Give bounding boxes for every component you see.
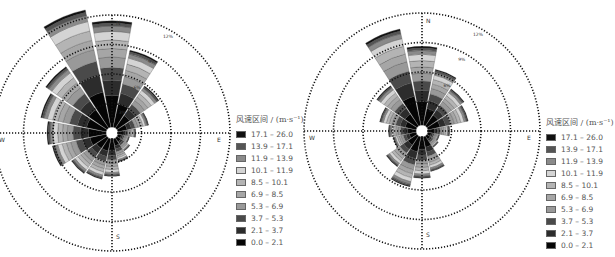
legend-title: 风速区间 / (m·s⁻¹) bbox=[546, 116, 614, 127]
legend-item: 10.1 – 11.9 bbox=[546, 167, 614, 179]
legend-rows: 17.1 – 26.013.9 – 17.111.9 – 13.910.1 – … bbox=[236, 128, 304, 248]
ring-label: 9% bbox=[148, 59, 156, 64]
legend-item: 17.1 – 26.0 bbox=[236, 128, 304, 140]
axis-label: S bbox=[116, 233, 120, 240]
axis-label: E bbox=[217, 136, 221, 143]
legend-label: 6.9 – 8.5 bbox=[561, 193, 593, 202]
legend-swatch bbox=[236, 155, 246, 162]
legend-title: 风速区间 / (m·s⁻¹) bbox=[236, 113, 304, 124]
legend-item: 11.9 – 13.9 bbox=[236, 152, 304, 164]
legend-label: 5.3 – 6.9 bbox=[251, 202, 283, 211]
legend-item: 2.1 – 3.7 bbox=[546, 227, 614, 239]
ring-label: 3% bbox=[119, 110, 127, 115]
legend-label: 3.7 – 5.3 bbox=[561, 217, 593, 226]
legend-label: 13.9 – 17.1 bbox=[561, 145, 603, 154]
wind-rose-left: 3%6%9%12%NSWE bbox=[0, 10, 230, 251]
axis-label: W bbox=[309, 134, 315, 141]
ring-label: 12% bbox=[163, 34, 174, 39]
legend-item: 5.3 – 6.9 bbox=[236, 200, 304, 212]
legend-label: 11.9 – 13.9 bbox=[251, 154, 293, 163]
legend-swatch bbox=[546, 170, 556, 177]
legend-item: 0.0 – 2.1 bbox=[236, 236, 304, 248]
legend-swatch bbox=[546, 218, 556, 225]
legend-label: 17.1 – 26.0 bbox=[251, 130, 293, 139]
legend-item: 3.7 – 5.3 bbox=[546, 215, 614, 227]
legend-item: 8.5 – 10.1 bbox=[546, 179, 614, 191]
legend-swatch bbox=[236, 239, 246, 246]
legend-rows: 17.1 – 26.013.9 – 17.111.9 – 13.910.1 – … bbox=[546, 131, 614, 251]
legend-item: 8.5 – 10.1 bbox=[236, 176, 304, 188]
legend-item: 17.1 – 26.0 bbox=[546, 131, 614, 143]
legend-item: 13.9 – 17.1 bbox=[546, 143, 614, 155]
legend-swatch bbox=[546, 230, 556, 237]
ring-label: 6% bbox=[134, 85, 142, 90]
legend-swatch bbox=[546, 182, 556, 189]
legend-swatch bbox=[236, 179, 246, 186]
legend-label: 10.1 – 11.9 bbox=[561, 169, 603, 178]
wind-rose-charts: 3%6%9%12%NSWE3%6%9%12%NSWE bbox=[0, 0, 615, 257]
legend-item: 11.9 – 13.9 bbox=[546, 155, 614, 167]
legend-swatch bbox=[546, 206, 556, 213]
legend-left: 风速区间 / (m·s⁻¹) 17.1 – 26.013.9 – 17.111.… bbox=[236, 113, 304, 248]
legend-swatch bbox=[236, 191, 246, 198]
legend-label: 6.9 – 8.5 bbox=[251, 190, 283, 199]
legend-label: 5.3 – 6.9 bbox=[561, 205, 593, 214]
legend-swatch bbox=[546, 134, 556, 141]
legend-label: 17.1 – 26.0 bbox=[561, 133, 603, 142]
ring-label: 6% bbox=[444, 83, 452, 88]
axis-label: N bbox=[116, 19, 121, 26]
legend-swatch bbox=[546, 146, 556, 153]
legend-item: 5.3 – 6.9 bbox=[546, 203, 614, 215]
legend-item: 0.0 – 2.1 bbox=[546, 239, 614, 251]
legend-swatch bbox=[236, 131, 246, 138]
legend-item: 2.1 – 3.7 bbox=[236, 224, 304, 236]
legend-label: 2.1 – 3.7 bbox=[561, 229, 593, 238]
legend-swatch bbox=[236, 143, 246, 150]
legend-label: 8.5 – 10.1 bbox=[561, 181, 598, 190]
axis-label: N bbox=[426, 17, 431, 24]
wind-rose-right: 3%6%9%12%NSWE bbox=[304, 13, 540, 249]
legend-right: 风速区间 / (m·s⁻¹) 17.1 – 26.013.9 – 17.111.… bbox=[546, 116, 614, 251]
ring-label: 12% bbox=[473, 32, 484, 37]
legend-swatch bbox=[236, 215, 246, 222]
ring-label: 3% bbox=[429, 108, 437, 113]
legend-item: 6.9 – 8.5 bbox=[236, 188, 304, 200]
legend-item: 10.1 – 11.9 bbox=[236, 164, 304, 176]
axis-label: S bbox=[426, 231, 430, 238]
legend-item: 3.7 – 5.3 bbox=[236, 212, 304, 224]
legend-swatch bbox=[546, 194, 556, 201]
legend-swatch bbox=[546, 242, 556, 249]
axis-label: E bbox=[527, 134, 531, 141]
ring-label: 9% bbox=[458, 57, 466, 62]
legend-swatch bbox=[236, 203, 246, 210]
legend-label: 3.7 – 5.3 bbox=[251, 214, 283, 223]
legend-swatch bbox=[546, 158, 556, 165]
legend-label: 2.1 – 3.7 bbox=[251, 226, 283, 235]
legend-label: 13.9 – 17.1 bbox=[251, 142, 293, 151]
axis-label: W bbox=[0, 136, 5, 143]
legend-swatch bbox=[236, 167, 246, 174]
legend-label: 10.1 – 11.9 bbox=[251, 166, 293, 175]
legend-swatch bbox=[236, 227, 246, 234]
legend-label: 11.9 – 13.9 bbox=[561, 157, 603, 166]
legend-label: 0.0 – 2.1 bbox=[561, 241, 593, 250]
legend-item: 13.9 – 17.1 bbox=[236, 140, 304, 152]
legend-label: 0.0 – 2.1 bbox=[251, 238, 283, 247]
legend-label: 8.5 – 10.1 bbox=[251, 178, 288, 187]
legend-item: 6.9 – 8.5 bbox=[546, 191, 614, 203]
